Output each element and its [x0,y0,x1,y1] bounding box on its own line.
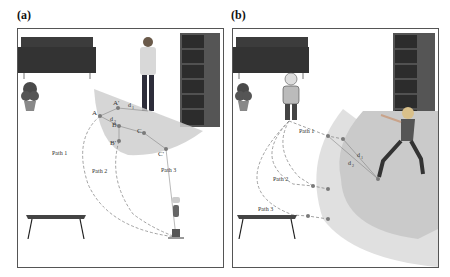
sofa-icon [18,37,96,79]
person-standing-icon [140,37,156,111]
label-d1: d [357,152,360,158]
label-path-2: Path 2 [273,176,288,182]
point-path1-outer [326,134,330,138]
sofa-icon [233,37,309,79]
point-person [376,177,380,181]
point-c-prime [164,147,168,151]
label-d2: d [348,160,351,166]
label-d1-sub: 1 [361,155,363,160]
panel-a-diagram: A A' B B' C C' d 1 d 2 Path 1 Path 2 Pat… [18,29,223,267]
bookshelf-icon [180,33,220,127]
point-b [117,124,121,128]
label-a: A [92,109,97,117]
label-a-prime: A' [113,99,119,107]
robot-icon [168,197,184,239]
table-icon [237,215,297,239]
label-c: C [137,127,142,135]
point-path2-inner [326,187,330,191]
point-a [98,114,102,118]
label-d2-sub: 2 [352,163,354,168]
label-d1-sub: 1 [132,105,134,110]
label-path-1: Path 1 [52,150,67,156]
label-path-3: Path 3 [258,206,273,212]
label-c-prime: C' [158,150,164,158]
point-b-prime [117,139,121,143]
path-3-line [166,149,176,237]
label-d1: d [128,102,131,108]
robot-icon [283,73,299,120]
table-icon [26,215,86,239]
label-path-1: Path 1 [299,128,314,134]
panel-b-diagram: Path 1 Path 2 Path 3 d 1 d 2 [233,29,438,267]
plant-icon [21,82,39,111]
point-path2-outer [311,184,315,188]
point-path3-outer [306,214,310,218]
point-path1-inner [341,137,345,141]
point-c [142,131,146,135]
label-b-prime: B' [110,139,116,147]
panel-a: A A' B B' C C' d 1 d 2 Path 1 Path 2 Pat… [17,28,224,268]
label-d2: d [110,116,113,122]
plant-icon [235,83,252,111]
label-path-2: Path 2 [92,168,107,174]
panel-b-label: (b) [231,8,246,23]
panel-b: Path 1 Path 2 Path 3 d 1 d 2 [232,28,439,268]
panel-a-label: (a) [17,8,31,23]
label-d2-sub: 2 [114,119,116,124]
label-path-3: Path 3 [161,167,176,173]
point-path3-inner [326,217,330,221]
